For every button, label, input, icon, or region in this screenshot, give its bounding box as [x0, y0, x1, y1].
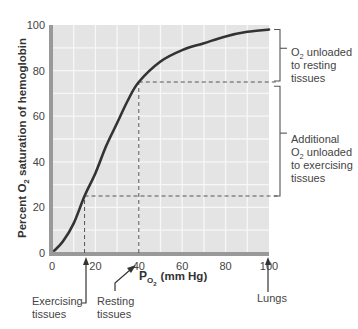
arrowhead-exercising-icon [83, 257, 89, 265]
x-tick-label: 80 [219, 260, 231, 272]
plot-area: 020406080100020406080100 [27, 19, 287, 272]
bracket [274, 86, 280, 196]
bracket [274, 30, 280, 81]
annotation-lungs: Lungs [257, 292, 287, 304]
bracket-label-resting: O2 unloaded to resting tissues [291, 46, 355, 84]
x-axis-line [49, 252, 269, 256]
y-tick-label: 40 [33, 156, 45, 168]
y-tick-label: 60 [33, 110, 45, 122]
bracket-label-exercising: Additional O2 unloaded to exercising tis… [291, 133, 356, 184]
arrow-resting-icon [115, 270, 130, 291]
y-tick-label: 20 [33, 201, 45, 213]
x-tick-label: 20 [89, 260, 101, 272]
x-axis-title: PO2(mm Hg) [139, 269, 207, 287]
oxygen-dissociation-chart: 020406080100020406080100 Percent O2 satu… [0, 0, 358, 329]
y-axis-line [49, 25, 53, 256]
y-tick-label: 0 [39, 247, 45, 259]
y-tick-label: 80 [33, 65, 45, 77]
annotation-resting-tissues: Resting tissues [97, 295, 137, 320]
y-tick-label: 100 [27, 19, 45, 31]
x-tick-label: 0 [49, 260, 55, 272]
y-axis-title: Percent O2 saturation of hemoglobin [16, 38, 31, 238]
annotation-exercising-tissues: Exercising tissues [32, 295, 86, 320]
